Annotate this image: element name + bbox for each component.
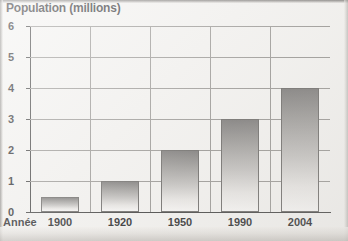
- x-tick-label-1950: 1950: [168, 216, 192, 228]
- category-divider: [90, 26, 91, 212]
- bar-1990: [221, 119, 259, 212]
- gridline-6: [30, 26, 330, 27]
- scan-edge-right: [344, 0, 348, 241]
- y-tick-label-1: 1: [0, 175, 14, 187]
- x-tick-label-1920: 1920: [108, 216, 132, 228]
- bar-2004: [281, 88, 319, 212]
- bar-1950: [161, 150, 199, 212]
- y-tick-label-3: 3: [0, 113, 14, 125]
- chart-title: Population (millions): [6, 1, 120, 15]
- y-tick-label-5: 5: [0, 51, 14, 63]
- plot-area: [30, 26, 330, 212]
- gridline-5: [30, 57, 330, 58]
- y-tick-label-2: 2: [0, 144, 14, 156]
- category-divider: [150, 26, 151, 212]
- category-divider: [270, 26, 271, 212]
- x-tick-label-2004: 2004: [288, 216, 312, 228]
- x-axis-line: [30, 212, 331, 213]
- x-tick-label-1990: 1990: [228, 216, 252, 228]
- category-divider: [210, 26, 211, 212]
- bar-1900: [41, 197, 79, 213]
- x-axis-title: Année: [3, 216, 37, 228]
- y-tick-label-6: 6: [0, 20, 14, 32]
- chart-screenshot: Population (millions) 0123456 Année 1900…: [0, 0, 348, 241]
- scan-edge-bottom: [0, 227, 348, 241]
- y-tick-mark-0: [26, 212, 30, 213]
- y-tick-label-4: 4: [0, 82, 14, 94]
- x-tick-label-1900: 1900: [48, 216, 72, 228]
- bar-1920: [101, 181, 139, 212]
